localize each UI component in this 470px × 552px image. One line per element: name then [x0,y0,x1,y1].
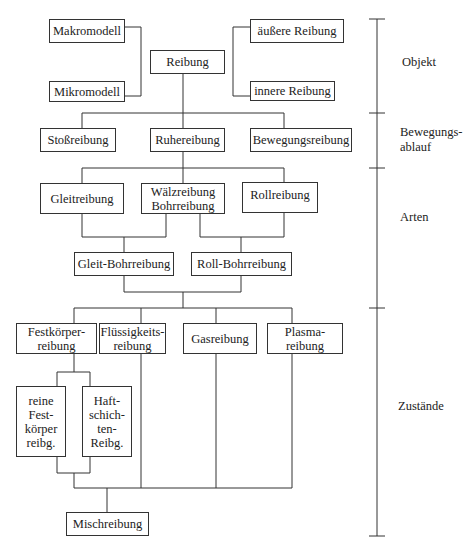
node-plasmareibung: Plasma- reibung [267,323,343,354]
scale-label-objekt: Objekt [402,55,436,70]
scale-label-bewegungsablauf: Bewegungs- ablauf [400,125,463,155]
node-reine-festkoerperreibung: reine Fest- körper reibg. [16,386,66,457]
node-reibung: Reibung [150,50,225,74]
scale-label-zustaende: Zustände [398,399,444,414]
node-haftschichtenreibung: Haft- schich- ten- Reibg. [82,386,132,457]
node-rollreibung: Rollreibung [242,182,318,213]
node-aeussere-reibung: äußere Reibung [250,19,344,43]
node-gasreibung: Gasreibung [183,323,257,354]
node-waelz-bohrreibung: Wälzreibung Bohrreibung [141,183,225,214]
node-stossreibung: Stoßreibung [40,128,116,152]
node-mischreibung: Mischreibung [66,512,149,536]
node-mikromodell: Mikromodell [49,81,125,102]
node-fluessigkeitsreibung: Flüssigkeits- reibung [99,323,166,354]
node-gleit-bohrreibung: Gleit-Bohrreibung [74,252,174,276]
scale-label-arten: Arten [400,210,428,225]
node-festkoerperreibung: Festkörper- reibung [16,323,97,354]
node-bewegungsreibung: Bewegungsreibung [250,128,352,152]
node-roll-bohrreibung: Roll-Bohrreibung [191,252,292,276]
node-ruhereibung: Ruhereibung [150,128,225,152]
node-gleitreibung: Gleitreibung [40,183,124,214]
node-innere-reibung: innere Reibung [250,81,335,101]
node-makromodell: Makromodell [49,19,125,43]
